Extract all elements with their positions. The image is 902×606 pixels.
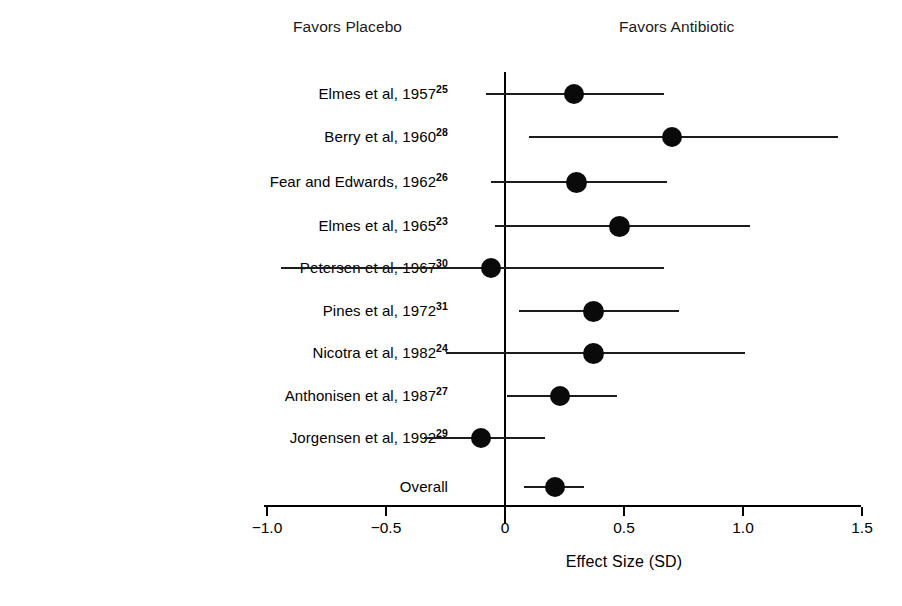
effect-estimate-marker <box>564 84 584 104</box>
x-axis-tick-label: −0.5 <box>371 519 402 537</box>
x-axis-tick-label: 1.0 <box>732 519 754 537</box>
x-axis-tick <box>623 507 625 516</box>
effect-estimate-marker <box>471 428 491 448</box>
plot-area <box>0 0 902 606</box>
x-axis-tick <box>385 507 387 516</box>
x-axis-tick-label: 0 <box>501 519 510 537</box>
effect-estimate-marker <box>662 127 682 147</box>
x-axis-tick-label: 0.5 <box>613 519 635 537</box>
effect-estimate-marker <box>566 172 587 193</box>
x-axis-tick <box>861 507 863 516</box>
effect-estimate-marker <box>609 216 630 237</box>
effect-estimate-marker <box>583 343 604 364</box>
x-axis-tick-label: 1.5 <box>851 519 873 537</box>
effect-estimate-marker <box>550 386 570 406</box>
effect-estimate-marker <box>583 301 604 322</box>
x-axis-tick <box>742 507 744 516</box>
confidence-interval-line <box>529 136 838 137</box>
x-axis-tick <box>504 507 506 516</box>
overall-effect-marker <box>545 477 565 497</box>
x-axis-tick-label: −1.0 <box>252 519 283 537</box>
confidence-interval-line <box>281 267 664 268</box>
zero-reference-line <box>504 72 506 523</box>
forest-plot-figure: Favors Placebo Favors Antibiotic Elmes e… <box>0 0 902 606</box>
effect-estimate-marker <box>481 258 501 278</box>
x-axis-title: Effect Size (SD) <box>566 553 683 571</box>
x-axis-tick <box>266 507 268 516</box>
x-axis-line <box>264 505 861 507</box>
